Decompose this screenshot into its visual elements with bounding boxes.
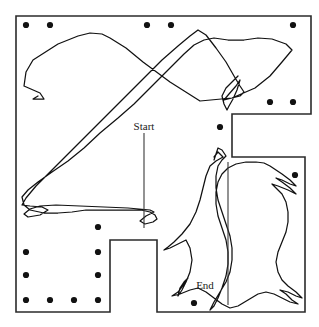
pillar-dot	[23, 249, 29, 255]
pillar-dot	[23, 22, 29, 28]
pillar-dot	[290, 22, 296, 28]
pillar-dot	[191, 300, 197, 306]
pillar-dot	[95, 249, 101, 255]
pillar-dot	[144, 22, 150, 28]
pillar-dot	[23, 297, 29, 303]
figure-root: Start End	[0, 0, 319, 327]
pillar-dot	[168, 22, 174, 28]
pillar-dot	[290, 99, 296, 105]
pillar-dot	[95, 297, 101, 303]
pillar-dot	[292, 172, 298, 178]
trajectory-figure: Start End	[0, 0, 319, 327]
pillar-dot	[47, 22, 53, 28]
pillar-dot	[23, 272, 29, 278]
pillar-dot	[95, 272, 101, 278]
pillar-dot	[267, 99, 273, 105]
pillar-dot	[95, 224, 101, 230]
pillar-dot	[71, 297, 77, 303]
end-label: End	[196, 279, 214, 291]
pillar-dot	[47, 297, 53, 303]
figure-background	[0, 0, 319, 327]
start-label: Start	[134, 120, 155, 132]
pillar-dot	[217, 124, 223, 130]
